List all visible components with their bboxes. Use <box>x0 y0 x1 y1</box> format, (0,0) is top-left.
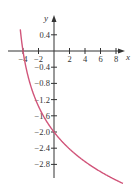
x-axis-ticks: −4−22468 <box>18 48 118 64</box>
x-tick-label: 4 <box>83 54 88 64</box>
y-tick-label: −2.8 <box>35 159 50 169</box>
y-axis-arrow-icon <box>52 15 57 22</box>
y-axis-label: y <box>43 13 48 23</box>
x-axis-arrow-icon <box>118 49 125 54</box>
axes <box>8 15 125 178</box>
x-axis-label: x <box>125 52 130 62</box>
y-tick-label: 0.4 <box>39 30 50 40</box>
x-tick-label: 8 <box>114 54 118 64</box>
chart: −4−22468 0.4−0.4−0.8−1.2−1.6−2.0−2.4−2.8… <box>0 0 135 184</box>
y-tick-label: −2.4 <box>35 143 51 153</box>
y-tick-label: −0.8 <box>35 78 50 88</box>
y-tick-label: −1.6 <box>35 111 50 121</box>
y-tick-label: −2.0 <box>35 127 50 137</box>
x-tick-label: 6 <box>98 54 102 64</box>
x-tick-label: 2 <box>67 54 71 64</box>
y-tick-label: −0.4 <box>35 62 51 72</box>
